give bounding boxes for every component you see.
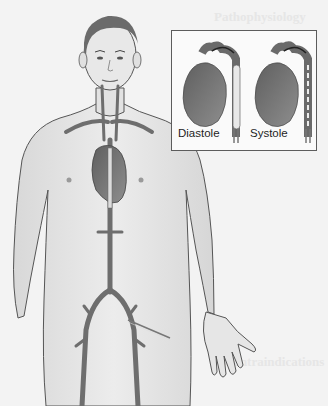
nipple-left [67, 178, 72, 183]
neck [96, 88, 124, 116]
diastole-label: Diastole [178, 127, 220, 139]
balloon-catheter [108, 148, 112, 208]
hand [203, 312, 255, 377]
inset-panel: Diastole Systole [171, 30, 317, 151]
head [79, 16, 141, 90]
figure-canvas: Pathophysiology Contraindications [0, 0, 328, 406]
nipple-right [139, 178, 144, 183]
systole-label: Systole [250, 127, 288, 139]
